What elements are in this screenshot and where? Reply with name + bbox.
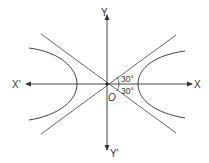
label-angle-upper: 30° [121,74,134,84]
label-y-prime: Y' [110,148,119,159]
label-x-prime: X' [12,79,21,90]
angle-arc-lower [117,84,119,91]
hyperbola-diagram: Y Y' X X' O 30° 30° [0,0,209,163]
label-y: Y [101,7,108,18]
angle-arc-upper [117,77,119,84]
label-origin: O [108,92,116,103]
label-angle-lower: 30° [121,86,134,96]
origin-point [105,82,108,85]
label-x: X [194,79,201,90]
